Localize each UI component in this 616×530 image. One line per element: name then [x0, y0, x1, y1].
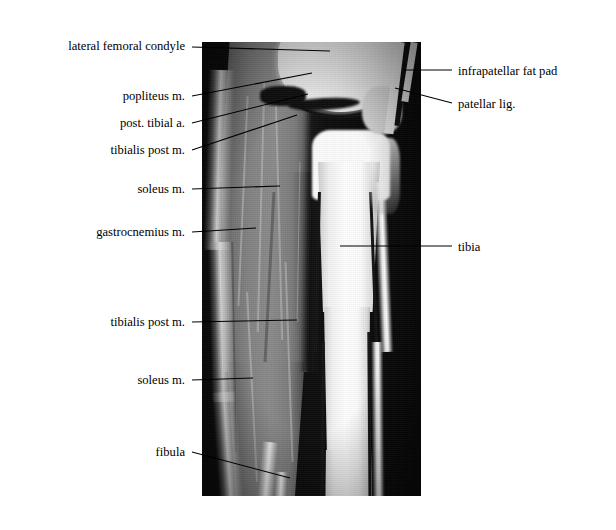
anatomy-label-left-leader-7 — [192, 378, 253, 380]
anatomy-label-left-leader-2 — [192, 94, 308, 123]
anatomy-label-left-2: post. tibial a. — [120, 117, 185, 130]
anatomy-label-left-7: soleus m. — [137, 374, 185, 387]
anatomy-label-left-0: lateral femoral condyle — [68, 40, 185, 53]
anatomy-label-left-8: fibula — [156, 446, 185, 459]
anatomy-label-left-leader-0 — [192, 47, 330, 51]
anatomy-label-right-1: patellar lig. — [458, 98, 515, 111]
anatomy-label-left-leader-3 — [192, 115, 297, 150]
anatomy-label-left-6: tibialis post m. — [110, 316, 185, 329]
anatomy-label-left-1: popliteus m. — [123, 90, 185, 103]
anatomy-label-left-leader-5 — [192, 228, 256, 232]
anatomy-label-right-0: infrapatellar fat pad — [458, 65, 557, 78]
anatomy-label-left-leader-6 — [192, 320, 297, 322]
anatomy-label-left-4: soleus m. — [137, 183, 185, 196]
leader-lines — [0, 0, 616, 530]
anatomy-label-left-5: gastrocnemius m. — [96, 226, 185, 239]
anatomy-label-left-leader-8 — [192, 452, 290, 478]
anatomy-label-left-leader-4 — [192, 186, 280, 189]
anatomy-label-right-2: tibia — [458, 241, 480, 254]
anatomy-label-left-leader-1 — [192, 73, 312, 96]
anatomy-label-left-3: tibialis post m. — [110, 144, 185, 157]
anatomy-label-right-leader-1 — [395, 88, 452, 103]
mri-anatomy-figure: lateral femoral condylepopliteus m.post.… — [0, 0, 616, 530]
